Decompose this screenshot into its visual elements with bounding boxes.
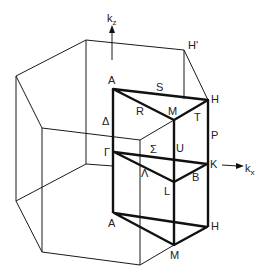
line-S: S (156, 82, 163, 93)
kx-axis-label: kx (245, 163, 255, 174)
line-U: U (176, 143, 184, 154)
line-Lambda: Λ (141, 168, 148, 179)
point-K: K (210, 159, 217, 170)
line-B: B (192, 172, 199, 183)
line-T: T (194, 112, 201, 123)
line-Delta: Δ (102, 116, 109, 127)
point-M-top: M (168, 106, 177, 117)
brillouin-zone-diagram (0, 0, 266, 278)
point-L: L (164, 186, 170, 197)
kz-axis-label: kz (107, 13, 117, 24)
point-A-bottom: A (108, 218, 115, 229)
point-Gamma: Γ (104, 147, 110, 158)
point-H-bottom: H (211, 221, 219, 232)
line-P: P (211, 130, 218, 141)
point-H-top: H (211, 94, 219, 105)
point-A-top: A (108, 75, 115, 86)
line-R: R (136, 106, 144, 117)
point-H-prime: H' (188, 40, 198, 51)
point-M-bottom: M (170, 250, 179, 261)
line-Sigma: Σ (150, 144, 157, 155)
hexagonal-prism-edges (16, 25, 244, 265)
